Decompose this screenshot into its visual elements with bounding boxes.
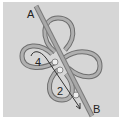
label-a: A bbox=[27, 9, 34, 20]
crossing-marker bbox=[57, 67, 63, 73]
arrowhead-icon bbox=[76, 103, 80, 109]
knot-diagram bbox=[0, 0, 122, 122]
crossing-marker bbox=[52, 59, 58, 65]
crossing-marker bbox=[73, 92, 79, 98]
label-loop-4: 4 bbox=[35, 57, 41, 68]
label-loop-2: 2 bbox=[57, 86, 63, 97]
label-b: B bbox=[93, 104, 100, 115]
